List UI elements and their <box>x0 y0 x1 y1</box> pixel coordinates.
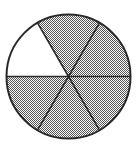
fraction-circle-diagram <box>0 0 137 149</box>
